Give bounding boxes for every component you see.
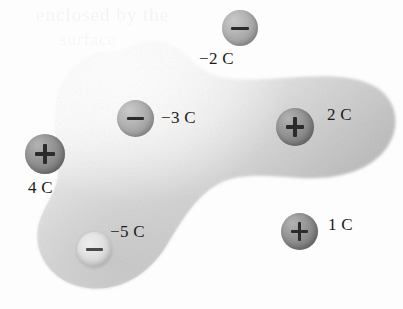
positive-charge-icon <box>25 134 65 174</box>
charge-neg-5c-label: −5 C <box>110 222 145 242</box>
charge-pos-2c <box>276 108 314 146</box>
positive-charge-icon <box>281 213 318 250</box>
charge-pos-1c <box>281 213 318 250</box>
charge-pos-4c-label: 4 C <box>28 178 53 198</box>
sign-horizontal-bar <box>231 27 248 30</box>
sign-vertical-bar <box>43 144 47 165</box>
negative-charge-icon <box>117 100 154 137</box>
sign-horizontal-bar <box>127 117 145 120</box>
sign-vertical-bar <box>298 222 301 241</box>
charge-pos-4c <box>25 134 65 174</box>
charge-pos-2c-label: 2 C <box>327 105 352 125</box>
charge-neg-2c-label: −2 C <box>199 49 234 69</box>
sign-horizontal-bar <box>86 248 103 251</box>
charge-pos-1c-label: 1 C <box>328 215 353 235</box>
charge-neg-3c-label: −3 C <box>161 108 196 128</box>
charge-figure: enclosed by the surface <box>0 0 403 309</box>
charge-neg-3c <box>117 100 154 137</box>
charge-neg-2c <box>222 10 258 46</box>
negative-charge-icon <box>222 10 258 46</box>
negative-charge-icon <box>77 232 112 267</box>
charge-neg-5c <box>77 232 112 267</box>
sign-vertical-bar <box>293 117 296 137</box>
positive-charge-icon <box>276 108 314 146</box>
